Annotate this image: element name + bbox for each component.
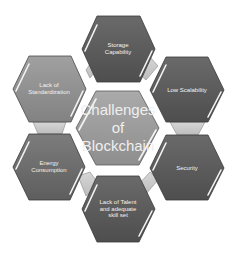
label-lack-of-standardization: Lack of Standardization <box>16 78 82 100</box>
label-low-scalability: Low Scalability <box>155 80 219 100</box>
connector-energy-standardization <box>33 122 66 134</box>
label-security: Security <box>155 158 219 178</box>
label-lack-of-talent: Lack of Talent and adequate skill set <box>88 194 148 224</box>
label-storage-capability: Storage Capability <box>88 38 148 60</box>
connector-scalability-security <box>170 122 205 135</box>
label-energy-consumption: Energy Consumption <box>18 156 80 178</box>
center-title: Challenges of Blockchain <box>76 100 160 156</box>
